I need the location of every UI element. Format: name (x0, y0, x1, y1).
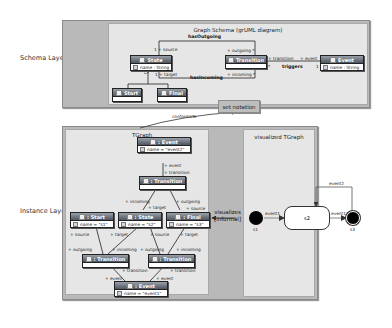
assoc-has-incoming: hasIncoming (190, 75, 223, 80)
class-state[interactable]: State name : String (130, 55, 172, 71)
set-notation-box: set notation (218, 100, 260, 113)
node-transition-right[interactable]: : Transition (148, 254, 195, 268)
conforms-to-label: conformsTo (172, 114, 197, 119)
role-transition-mult: * (268, 64, 270, 69)
edge-label: + event (156, 276, 173, 281)
node-start[interactable]: : Start name = "s1" (70, 212, 114, 228)
edge-label: + outgoing (176, 199, 200, 204)
node-transition-left[interactable]: : Transition (82, 254, 129, 268)
role-incoming: + incoming * (227, 72, 255, 77)
class-final[interactable]: Final (157, 88, 187, 102)
object-icon (127, 283, 133, 289)
class-transition[interactable]: Transition (225, 55, 267, 69)
state-label-s3: s3 (350, 227, 355, 232)
attribute-icon (133, 65, 138, 70)
class-icon (228, 57, 234, 63)
state-s2[interactable]: s2 (284, 206, 330, 230)
state-label-s1: s1 (253, 227, 258, 232)
assoc-triggers: triggers (282, 64, 303, 69)
attribute-icon (121, 222, 126, 227)
role-outgoing: + outgoing * (227, 48, 255, 53)
edge-label: + source (186, 206, 205, 211)
transition-label-t2: event1 (331, 211, 346, 216)
attribute-icon (140, 147, 145, 152)
object-icon (175, 214, 181, 220)
edge-label: + incoming (112, 247, 137, 252)
object-icon (127, 214, 133, 220)
final-state-s3[interactable] (346, 211, 360, 225)
node-event2[interactable]: : Event name = "event2" (137, 137, 191, 153)
node-event1[interactable]: : Event name = "event1" (114, 281, 168, 297)
edge-label: + source (70, 232, 89, 237)
diagram-lines (0, 0, 392, 328)
class-icon (116, 90, 122, 96)
transition-label-t1: event1 (265, 211, 280, 216)
edge-label: + transition (122, 268, 147, 273)
attribute-icon (117, 291, 122, 296)
role-target: 1 + target (155, 72, 177, 77)
assoc-has-outgoing: hasOutgoing (188, 34, 221, 39)
edge-label: + transition (170, 268, 195, 273)
object-icon (150, 139, 156, 145)
object-icon (86, 256, 92, 262)
transition-label-loop: event2 (329, 181, 344, 186)
edge-label: + source (150, 232, 169, 237)
edge-label: + target (180, 232, 198, 237)
role-event: + event (300, 56, 317, 61)
edge-label: + incoming (176, 247, 201, 252)
class-start[interactable]: Start (112, 88, 142, 102)
role-event-mult: 1 (316, 64, 319, 69)
class-icon (139, 57, 145, 63)
edge-label: + event (105, 276, 122, 281)
object-icon (79, 214, 85, 220)
edge-label: + outgoing (68, 247, 92, 252)
node-state[interactable]: : State name = "s2" (118, 212, 162, 228)
attribute-icon (73, 222, 78, 227)
class-event[interactable]: Event name : String (320, 55, 364, 71)
edge-label: + incoming (125, 199, 150, 204)
role-source: 1 + source (154, 47, 177, 52)
object-icon (143, 178, 149, 184)
edge-label: + event (164, 163, 181, 168)
attribute-icon (169, 222, 174, 227)
initial-state-s1[interactable] (249, 211, 263, 225)
object-icon (152, 256, 158, 262)
edge-label: + outgoing (140, 247, 164, 252)
class-icon (330, 57, 336, 63)
node-final[interactable]: : Final name = "s3" (166, 212, 210, 228)
role-transition: + transition (268, 56, 293, 61)
edge-label: + target (148, 205, 166, 210)
attribute-icon (323, 65, 328, 70)
class-icon (161, 90, 167, 96)
visualizes-label: visualizes [informal] (214, 209, 241, 223)
edge-label: + transition (164, 170, 189, 175)
edge-label: + target (110, 232, 128, 237)
node-transition-top[interactable]: : Transition (139, 176, 186, 190)
